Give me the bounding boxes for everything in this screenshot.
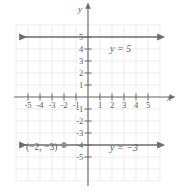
- x-tick-label-2: 2: [106, 101, 118, 110]
- plotted-lines: [20, 37, 158, 145]
- y-tick-label-3: 3: [68, 57, 83, 66]
- y-tick-label-5: 5: [68, 33, 83, 42]
- y-tick-label-neg2: -2: [66, 117, 83, 126]
- x-tick-label-1: 1: [94, 101, 106, 110]
- y-tick-label-neg5: -5: [66, 153, 83, 162]
- line-label-y-equals-negative-3: y = −3: [110, 143, 138, 153]
- x-tick-label-5: 5: [142, 101, 154, 110]
- y-tick-label-neg4: -4: [66, 141, 83, 150]
- y-tick-label-4: 4: [68, 45, 83, 54]
- x-axis-label: x: [167, 94, 171, 103]
- x-tick-label-4: 4: [130, 101, 142, 110]
- coordinate-plane-figure: -5 -4 -3 -2 -1 1 2 3 4 5 5 4 3 2 1 -1 -2…: [0, 0, 187, 193]
- y-axis-label: y: [78, 5, 82, 14]
- x-tick-label-3: 3: [118, 101, 130, 110]
- y-tick-label-neg3: -3: [66, 129, 83, 138]
- y-tick-label-neg1: -1: [66, 105, 83, 114]
- y-tick-label-1: 1: [68, 81, 83, 90]
- plotted-point-label: (−2, −3): [26, 143, 57, 153]
- y-tick-label-2: 2: [68, 69, 83, 78]
- graph-canvas: [0, 0, 187, 193]
- axes: [14, 8, 170, 186]
- line-label-y-equals-5: y = 5: [110, 44, 131, 54]
